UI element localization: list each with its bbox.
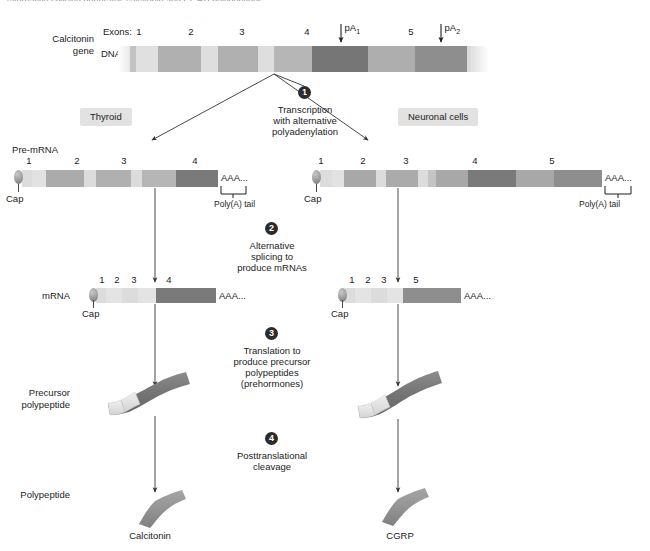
segment-intron2 [96, 170, 131, 187]
segment-exon2 [376, 170, 386, 187]
premrna-thyroid-bar [22, 170, 218, 187]
step-3-text-line-3: polypeptides [207, 367, 337, 379]
step-2-text-line-1: Alternative [207, 240, 337, 252]
product-cgrp-label: CGRP [345, 530, 455, 542]
premrna-right-exon-number-5: 5 [545, 155, 559, 166]
gene-exon-number-3: 3 [235, 26, 249, 37]
segment-exon4 [468, 170, 516, 187]
gene-exon-number-1: 1 [132, 26, 146, 37]
premrna-right-cap-label: Cap [304, 193, 321, 205]
segment-intron4 [368, 46, 415, 72]
step-2-badge: 2 [265, 222, 278, 235]
premrna-right-exon-number-1: 1 [314, 155, 328, 166]
segment-intron3 [428, 170, 436, 187]
pre-mrna-label: Pre-mRNA [0, 144, 58, 156]
premrna-right-cap-icon [312, 170, 321, 184]
mrna-left-exon-number-3: 3 [127, 274, 141, 285]
segment-exon2 [371, 288, 387, 303]
tissue-label-thyroid: Thyroid [80, 108, 132, 126]
segment-exon2 [84, 170, 96, 187]
segment-exon1 [32, 170, 46, 187]
segment-3-flank [467, 46, 489, 72]
premrna-right-polya-brace [605, 186, 631, 198]
mrna-left-exon-number-2: 2 [110, 274, 124, 285]
precursor-polypeptide-neuronal [358, 371, 442, 418]
precursor-label-line1: Precursor [0, 387, 70, 399]
segment-exon3 [387, 288, 403, 303]
segment-exon5 [415, 46, 467, 72]
mrna-cgrp-bar [345, 288, 461, 303]
polypeptide-calcitonin [139, 490, 186, 528]
precursor-label-line2: polypeptide [0, 399, 70, 411]
mrna-right-aaa-label: AAA... [464, 290, 491, 302]
premrna-right-exon-number-4: 4 [468, 155, 482, 166]
segment-exon1 [106, 288, 122, 303]
segment-exon5 [403, 288, 461, 303]
segment-intron1 [344, 170, 376, 187]
premrna-right-aaa-label: AAA... [605, 172, 632, 184]
segment-intron3 [142, 170, 176, 187]
step-3-text-line-1: Translation to [207, 345, 337, 357]
segment-intron4 [516, 170, 554, 187]
segment-exon2 [122, 288, 138, 303]
premrna-right-exon-number-2: 2 [356, 155, 370, 166]
premrna-left-polya-brace [221, 186, 246, 198]
premrna-left-exon-number-1: 1 [22, 155, 36, 166]
top-cut-caption: Alternative splicing generates calcitoni… [6, 0, 566, 1]
segment-intron3b [436, 170, 468, 187]
mrna-right-exon-number-1: 1 [345, 274, 359, 285]
premrna-left-exon-number-4: 4 [188, 155, 202, 166]
product-calcitonin-label: Calcitonin [95, 530, 205, 542]
polypeptide-label: Polypeptide [0, 489, 70, 501]
segment-exon3 [258, 46, 274, 72]
mrna-left-cap-label: Cap [82, 308, 99, 320]
premrna-left-exon-number-2: 2 [70, 155, 84, 166]
poly-a-site-2-label: pA2 [434, 10, 460, 48]
mrna-right-exon-number-2: 2 [361, 274, 375, 285]
step-4-text-line-1: Posttranslational [207, 450, 337, 462]
polypeptide-cgrp [382, 488, 429, 526]
pa2-subscript: 2 [456, 27, 460, 34]
step-4-badge: 4 [265, 432, 278, 445]
segment-exon4 [156, 288, 216, 303]
mrna-right-exon-number-5: 5 [409, 274, 423, 285]
segment-intron2 [218, 46, 258, 72]
premrna-left-cap-label: Cap [6, 193, 23, 205]
pa1-subscript: 1 [356, 27, 360, 34]
pa1-text: pA [345, 22, 357, 33]
segment-exon3 [138, 288, 156, 303]
step-1-text-line-3: polyadenylation [240, 126, 370, 138]
segment-cap-lead [22, 170, 32, 187]
segment-exon1 [355, 288, 371, 303]
tissue-label-neuronal: Neuronal cells [398, 108, 478, 126]
segment-intron2 [386, 170, 418, 187]
segment-exon5 [554, 170, 602, 187]
mrna-right-cap-label: Cap [331, 308, 348, 320]
step-1-badge: 1 [298, 86, 311, 99]
mrna-right-cap-stem [342, 300, 343, 308]
segment-exon1 [332, 170, 344, 187]
premrna-right-exon-number-3: 3 [399, 155, 413, 166]
poly-a-site-1-label: pA1 [334, 10, 360, 48]
gene-exon-number-5: 5 [404, 26, 418, 37]
segment-exon3 [131, 170, 142, 187]
segment-exon4 [176, 170, 218, 187]
mrna-calcitonin-bar [96, 288, 216, 303]
gene-label-line2: gene [14, 45, 94, 57]
premrna-right-polya-label: Poly(A) tail [579, 199, 620, 211]
mrna-left-exon-number-1: 1 [95, 274, 109, 285]
segment-exon1 [136, 46, 158, 72]
premrna-neuronal-bar [320, 170, 602, 187]
segment-intron3 [274, 46, 312, 72]
step-2-text-line-3: produce mRNAs [207, 262, 337, 274]
gene-exon-number-2: 2 [184, 26, 198, 37]
segment-exon4 [312, 46, 368, 72]
calcitonin-gene-dna-bar [118, 46, 489, 72]
step-3-text-line-2: produce precursor [207, 356, 337, 368]
step-3-badge: 3 [265, 327, 278, 340]
premrna-left-polya-label: Poly(A) tail [214, 199, 255, 211]
segment-5-flank [118, 46, 130, 72]
gene-exon-number-4: 4 [300, 26, 314, 37]
premrna-left-cap-stem [18, 184, 19, 192]
mrna-left-cap-stem [93, 300, 94, 308]
